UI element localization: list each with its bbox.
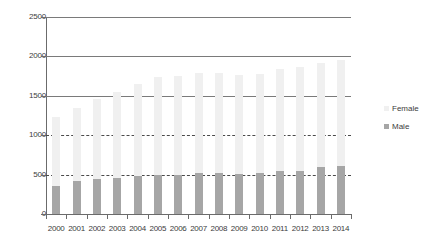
y-tick-label-1000: 1000 — [6, 130, 46, 139]
bar-segment-male-2012[interactable] — [296, 171, 304, 214]
x-tick-11 — [270, 214, 271, 219]
x-tick-5 — [148, 214, 149, 219]
y-tick-label-2000: 2000 — [6, 51, 46, 60]
bar-segment-female-2006[interactable] — [174, 76, 182, 175]
x-tick-0 — [46, 214, 47, 219]
legend: Female Male — [384, 104, 419, 140]
y-tick-label-1500: 1500 — [6, 91, 46, 100]
bar-group-2000[interactable] — [52, 117, 60, 214]
bar-segment-female-2012[interactable] — [296, 67, 304, 171]
legend-label-female: Female — [392, 104, 419, 113]
legend-swatch-female-icon — [384, 106, 389, 111]
bar-segment-male-2002[interactable] — [93, 179, 101, 214]
bar-segment-male-2001[interactable] — [73, 181, 81, 214]
bar-segment-male-2008[interactable] — [215, 173, 223, 214]
x-tick-13 — [310, 214, 311, 219]
bar-group-2014[interactable] — [337, 60, 345, 214]
gridline-2000 — [46, 56, 351, 57]
x-tick-14 — [331, 214, 332, 219]
x-tick-8 — [209, 214, 210, 219]
bar-segment-female-2009[interactable] — [235, 75, 243, 174]
bar-segment-female-2005[interactable] — [154, 77, 162, 175]
gridline-2500 — [46, 17, 351, 18]
bar-group-2003[interactable] — [113, 92, 121, 214]
bar-group-2006[interactable] — [174, 76, 182, 214]
bar-segment-male-2014[interactable] — [337, 166, 345, 214]
bar-group-2012[interactable] — [296, 67, 304, 214]
bar-chart: 05001000150020002500 2000200120022003200… — [0, 0, 442, 247]
bar-group-2013[interactable] — [317, 63, 325, 214]
x-tick-label-2014: 2014 — [328, 224, 354, 233]
bar-group-2009[interactable] — [235, 75, 243, 214]
bar-segment-female-2008[interactable] — [215, 73, 223, 173]
legend-item-male[interactable]: Male — [384, 122, 419, 131]
x-tick-4 — [127, 214, 128, 219]
x-tick-7 — [188, 214, 189, 219]
bar-segment-female-2010[interactable] — [256, 74, 264, 174]
bar-segment-male-2007[interactable] — [195, 173, 203, 214]
bar-segment-female-2003[interactable] — [113, 92, 121, 178]
bar-group-2004[interactable] — [134, 84, 142, 214]
bar-segment-female-2002[interactable] — [93, 99, 101, 179]
bar-segment-male-2005[interactable] — [154, 175, 162, 214]
bar-segment-male-2010[interactable] — [256, 173, 264, 214]
bar-segment-female-2013[interactable] — [317, 63, 325, 167]
x-tick-3 — [107, 214, 108, 219]
legend-swatch-male-icon — [384, 124, 389, 129]
bar-group-2001[interactable] — [73, 108, 81, 214]
bar-segment-male-2013[interactable] — [317, 167, 325, 214]
bar-group-2007[interactable] — [195, 73, 203, 214]
x-tick-1 — [66, 214, 67, 219]
legend-label-male: Male — [392, 122, 409, 131]
bar-segment-male-2009[interactable] — [235, 174, 243, 214]
bar-segment-female-2000[interactable] — [52, 117, 60, 186]
x-tick-6 — [168, 214, 169, 219]
bar-segment-male-2011[interactable] — [276, 171, 284, 214]
bar-segment-male-2006[interactable] — [174, 175, 182, 214]
bar-group-2002[interactable] — [93, 99, 101, 214]
y-tick-label-500: 500 — [6, 170, 46, 179]
plot-area — [46, 17, 351, 214]
y-tick-label-2500: 2500 — [6, 12, 46, 21]
bar-group-2008[interactable] — [215, 73, 223, 214]
x-tick-15 — [351, 214, 352, 219]
bar-segment-female-2007[interactable] — [195, 73, 203, 173]
bar-segment-male-2003[interactable] — [113, 178, 121, 214]
x-tick-2 — [87, 214, 88, 219]
x-axis-line — [46, 214, 352, 215]
x-tick-9 — [229, 214, 230, 219]
x-tick-10 — [249, 214, 250, 219]
bar-group-2010[interactable] — [256, 74, 264, 214]
bar-segment-female-2011[interactable] — [276, 69, 284, 171]
y-tick-label-0: 0 — [6, 209, 46, 218]
legend-item-female[interactable]: Female — [384, 104, 419, 113]
bar-group-2005[interactable] — [154, 77, 162, 214]
bar-segment-male-2000[interactable] — [52, 186, 60, 214]
bar-segment-female-2001[interactable] — [73, 108, 81, 182]
bar-segment-female-2014[interactable] — [337, 60, 345, 166]
bar-group-2011[interactable] — [276, 69, 284, 214]
bar-segment-female-2004[interactable] — [134, 84, 142, 176]
bar-segment-male-2004[interactable] — [134, 176, 142, 214]
x-tick-12 — [290, 214, 291, 219]
